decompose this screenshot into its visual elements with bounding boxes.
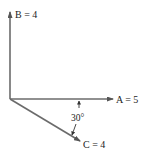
angle-label: 30° <box>71 113 85 123</box>
vector-c-label: C = 4 <box>83 139 105 150</box>
vector-c-arrow <box>10 99 80 141</box>
vector-b-label: B = 4 <box>15 9 37 20</box>
vector-a-label: A = 5 <box>116 94 138 105</box>
angle-arrow-bottom <box>72 124 76 135</box>
vector-diagram: B = 4 A = 5 C = 4 30° <box>0 0 147 153</box>
